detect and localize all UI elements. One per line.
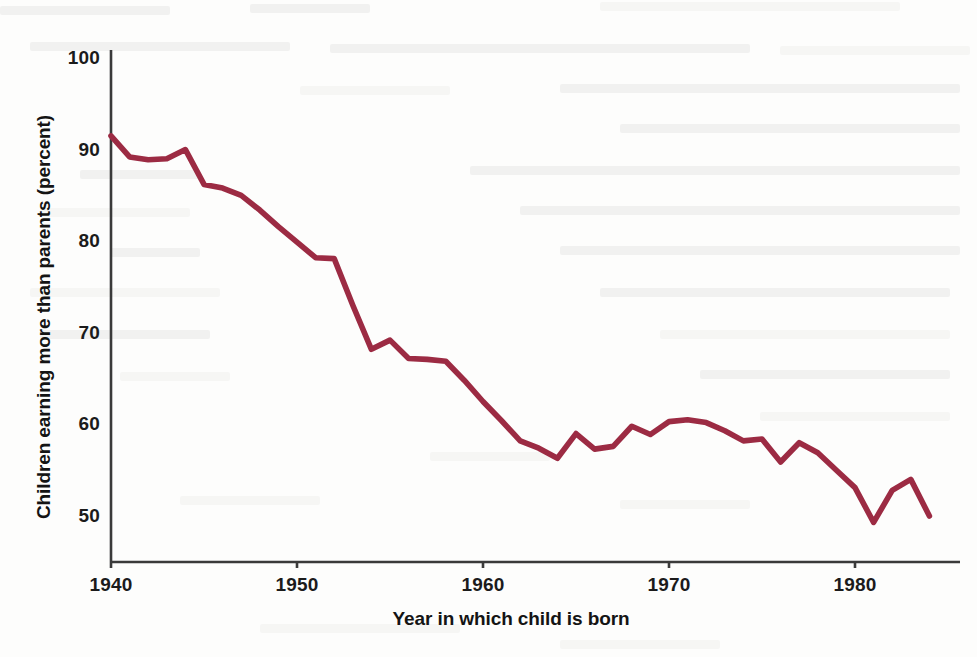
x-tick-label: 1970 <box>647 574 690 596</box>
data-series-line <box>111 136 929 523</box>
x-axis-title: Year in which child is born <box>111 608 911 630</box>
y-tick-label: 100 <box>44 47 100 69</box>
x-tick-label: 1950 <box>275 574 318 596</box>
x-tick-label: 1960 <box>461 574 504 596</box>
chart-figure: 100 90 80 70 60 50 1940 1950 1960 1970 1… <box>0 0 977 657</box>
x-tick-label: 1940 <box>89 574 132 596</box>
x-tick-label: 1980 <box>833 574 876 596</box>
line-chart-plot <box>0 0 977 657</box>
y-axis-title: Children earning more than parents (perc… <box>33 67 55 567</box>
